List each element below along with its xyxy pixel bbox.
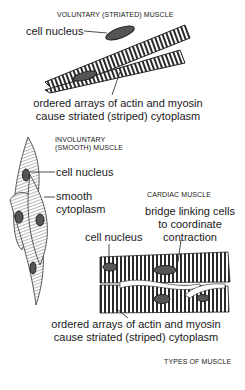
voluntary-heading: VOLUNTARY (STRIATED) MUSCLE	[57, 11, 174, 19]
voluntary-nucleus-label: cell nucleus	[26, 25, 83, 38]
nucleus-icon	[154, 266, 176, 275]
cardiac-striation-line2: cause striated (striped) cytoplasm	[50, 331, 222, 344]
involuntary-cytoplasm-line2: cytoplasm	[56, 203, 106, 216]
involuntary-nucleus-label: cell nucleus	[56, 166, 113, 179]
cardiac-striation-line1: ordered arrays of actin and myosin	[50, 318, 222, 331]
cardiac-bridge-line1: bridge linking cells	[135, 205, 245, 218]
cardiac-muscle-figure	[100, 240, 230, 318]
cardiac-heading: CARDIAC MUSCLE	[147, 191, 211, 199]
involuntary-cytoplasm-line1: smooth	[56, 190, 92, 203]
diagram-title: TYPES OF MUSCLE	[164, 358, 231, 366]
voluntary-striation-line2: cause striated (striped) cytoplasm	[32, 110, 204, 123]
nucleus-icon	[30, 262, 36, 274]
involuntary-heading-line2: (SMOOTH) MUSCLE	[55, 144, 123, 152]
nucleus-icon	[104, 23, 136, 43]
voluntary-striation-line1: ordered arrays of actin and myosin	[32, 97, 204, 110]
smooth-muscle-figure	[10, 137, 55, 305]
nucleus-icon	[154, 295, 170, 304]
involuntary-heading-line1: INVOLUNTARY	[55, 136, 105, 144]
cardiac-bridge-line2: to coordinate	[135, 218, 245, 231]
nucleus-icon	[103, 263, 117, 271]
nucleus-icon	[23, 169, 30, 181]
nucleus-icon	[197, 295, 209, 302]
cardiac-bridge-line3: contraction	[135, 231, 245, 244]
cardiac-nucleus-label: cell nucleus	[85, 231, 142, 244]
nucleus-icon	[15, 211, 23, 223]
nucleus-icon	[36, 214, 44, 226]
